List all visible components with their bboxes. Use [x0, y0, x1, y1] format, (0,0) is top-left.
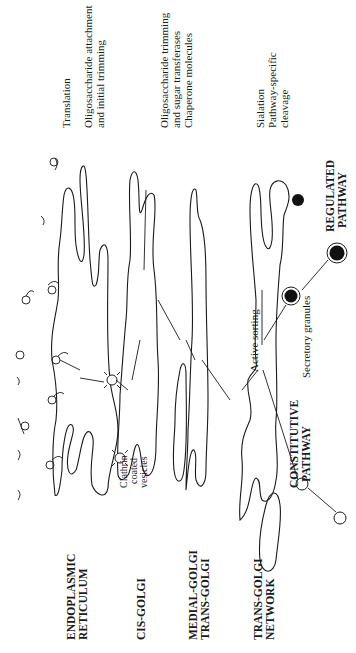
function-tgn: Sialation Pathway-specific cleavage [254, 52, 290, 128]
svg-text:TRANS-GOLGI: TRANS-GOLGI [199, 558, 211, 640]
clathrin-coated-vesicles [104, 372, 128, 466]
svg-text:vesicles: vesicles [138, 456, 149, 488]
svg-text:Oligosaccharide trimming: Oligosaccharide trimming [158, 12, 170, 128]
svg-text:PATHWAY: PATHWAY [300, 425, 312, 482]
svg-text:CIS-GOLGI: CIS-GOLGI [135, 577, 147, 640]
svg-text:REGULATED: REGULATED [324, 160, 336, 232]
svg-text:ENDOPLASMIC: ENDOPLASMIC [65, 554, 77, 640]
free-ribosomes [16, 158, 58, 500]
tgn-membrane [240, 181, 289, 520]
secretory-pathway-diagram: ENDOPLASMIC RETICULUM CIS-GOLGI MEDIAL-G… [0, 0, 356, 653]
svg-text:Secretory granules: Secretory granules [300, 296, 312, 378]
svg-text:Translation: Translation [60, 78, 72, 128]
medial-golgi-inner [173, 364, 186, 482]
label-medial-trans-golgi: MEDIAL-GOLGI TRANS-GOLGI [187, 549, 211, 640]
label-cis-golgi: CIS-GOLGI [135, 577, 147, 640]
label-endoplasmic-reticulum: ENDOPLASMIC RETICULUM [65, 554, 89, 640]
svg-text:TRANS-GOLGI: TRANS-GOLGI [252, 558, 264, 640]
svg-text:NETWORK: NETWORK [264, 579, 276, 640]
constitutive-vesicle [296, 478, 346, 524]
function-cis-golgi: Oligosaccharide trimming and sugar trans… [158, 12, 194, 128]
svg-text:and initial trimming: and initial trimming [94, 40, 106, 128]
regulated-pathway-label: REGULATED PATHWAY [324, 160, 348, 232]
svg-text:MEDIAL-GOLGI: MEDIAL-GOLGI [187, 549, 199, 640]
svg-text:Pathway-specific: Pathway-specific [266, 52, 278, 128]
constitutive-pathway-label: CONSTITUTIVE PATHWAY [288, 399, 312, 488]
secretory-granules-label: Secretory granules [300, 296, 312, 378]
er-membrane [52, 166, 118, 496]
svg-text:CONSTITUTIVE: CONSTITUTIVE [288, 399, 300, 488]
svg-text:Chaperone molecules: Chaperone molecules [182, 33, 194, 128]
medial-golgi-membrane [186, 189, 208, 490]
function-er: Translation Oligosaccharide attachment a… [60, 6, 106, 128]
cis-golgi-membrane [117, 172, 158, 480]
svg-text:Sialation: Sialation [254, 88, 266, 128]
svg-text:and sugar transferases: and sugar transferases [170, 31, 182, 128]
svg-text:Oligosaccharide attachment: Oligosaccharide attachment [82, 6, 94, 128]
clathrin-label: Clathrin coated vesicles [118, 455, 149, 488]
svg-text:cleavage: cleavage [278, 89, 290, 128]
svg-text:Active sorting: Active sorting [248, 309, 260, 372]
active-sorting-label: Active sorting [248, 309, 260, 372]
svg-text:PATHWAY: PATHWAY [336, 171, 348, 228]
svg-text:RETICULUM: RETICULUM [77, 568, 89, 640]
